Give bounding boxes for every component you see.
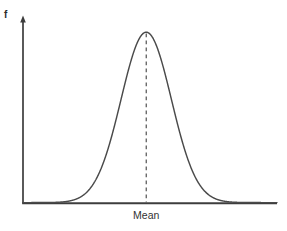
plot-area [0, 0, 287, 231]
x-axis-label: Mean [0, 210, 287, 221]
normal-distribution-chart: f Mean [0, 0, 287, 231]
normal-distribution-curve [23, 32, 277, 202]
y-axis-label: f [4, 10, 7, 20]
